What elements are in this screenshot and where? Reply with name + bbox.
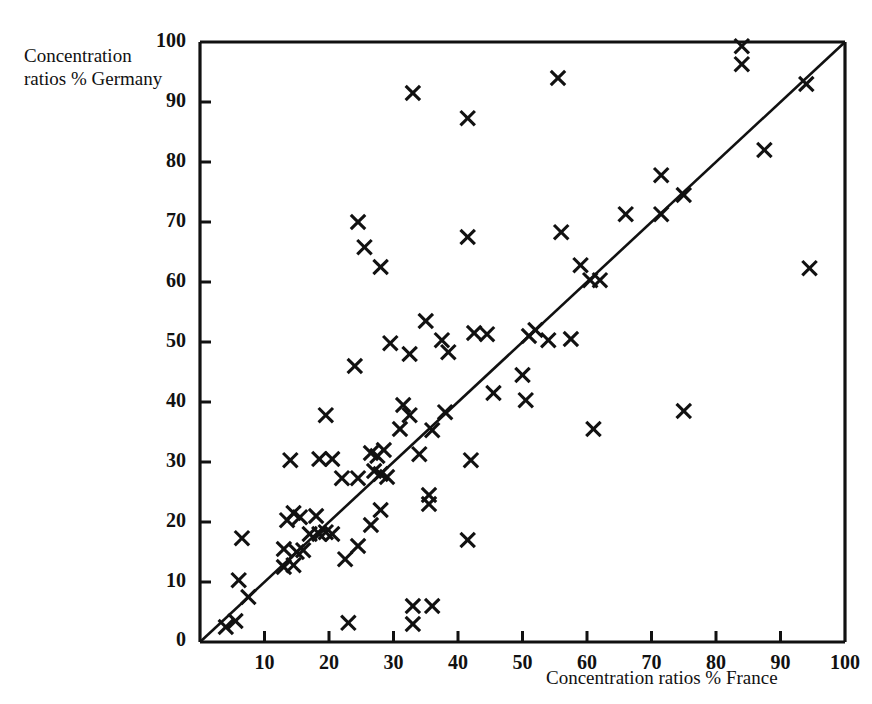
data-point: [325, 452, 339, 466]
data-point: [351, 215, 365, 229]
y-tick-label-10: 10: [110, 569, 186, 592]
x-tick-label-20: 20: [299, 651, 359, 674]
data-point: [319, 408, 333, 422]
y-tick-label-50: 50: [110, 329, 186, 352]
data-point: [406, 599, 420, 613]
data-point: [802, 261, 816, 275]
data-point-markers: [219, 39, 817, 634]
data-point: [277, 542, 291, 556]
data-point: [402, 347, 416, 361]
data-point: [348, 359, 362, 373]
data-point: [460, 533, 474, 547]
y-tick-label-40: 40: [110, 389, 186, 412]
data-point: [312, 452, 326, 466]
data-point: [486, 386, 500, 400]
y-tick-label-100: 100: [110, 29, 186, 52]
y-tick-label-70: 70: [110, 209, 186, 232]
data-point: [551, 71, 565, 85]
data-point: [419, 314, 433, 328]
data-point: [393, 422, 407, 436]
data-point: [351, 539, 365, 553]
data-point: [364, 518, 378, 532]
x-tick-label-10: 10: [235, 651, 295, 674]
origin-tick-label: 0: [110, 628, 186, 651]
x-tick-label-90: 90: [751, 651, 811, 674]
data-point: [351, 471, 365, 485]
data-point: [480, 327, 494, 341]
data-point: [460, 111, 474, 125]
data-point: [373, 260, 387, 274]
data-point: [735, 57, 749, 71]
x-tick-label-40: 40: [428, 651, 488, 674]
data-point: [554, 225, 568, 239]
data-point: [586, 422, 600, 436]
data-point: [573, 258, 587, 272]
data-point: [528, 323, 542, 337]
scatter-plot-figure: Concentration ratios % Germany Concentra…: [0, 0, 872, 704]
data-point: [564, 332, 578, 346]
data-point: [654, 207, 668, 221]
data-point: [338, 552, 352, 566]
data-point: [412, 447, 426, 461]
data-point: [757, 143, 771, 157]
data-point: [460, 230, 474, 244]
y-tick-label-20: 20: [110, 509, 186, 532]
data-point: [241, 590, 255, 604]
data-point: [293, 510, 307, 524]
x-tick-label-80: 80: [686, 651, 746, 674]
data-point: [593, 273, 607, 287]
y-tick-label-60: 60: [110, 269, 186, 292]
y-tick-label-80: 80: [110, 149, 186, 172]
x-tick-label-70: 70: [622, 651, 682, 674]
data-point: [406, 86, 420, 100]
data-point: [654, 168, 668, 182]
data-point: [235, 531, 249, 545]
data-point: [335, 471, 349, 485]
y-tick-label-30: 30: [110, 449, 186, 472]
data-point: [232, 573, 246, 587]
data-point: [309, 509, 323, 523]
data-point: [464, 453, 478, 467]
x-tick-label-50: 50: [493, 651, 553, 674]
data-point: [425, 599, 439, 613]
data-point: [341, 616, 355, 630]
data-point: [515, 368, 529, 382]
data-point: [541, 333, 555, 347]
data-point: [422, 488, 436, 502]
data-point: [283, 453, 297, 467]
data-point: [406, 617, 420, 631]
data-point: [286, 558, 300, 572]
y-tick-label-90: 90: [110, 89, 186, 112]
data-point: [383, 336, 397, 350]
data-point: [619, 207, 633, 221]
data-point: [677, 404, 691, 418]
data-point: [377, 443, 391, 457]
data-point: [357, 240, 371, 254]
x-tick-label-100: 100: [815, 651, 872, 674]
x-tick-label-60: 60: [557, 651, 617, 674]
x-tick-label-30: 30: [364, 651, 424, 674]
data-point: [438, 405, 452, 419]
data-point: [519, 393, 533, 407]
data-point: [373, 503, 387, 517]
